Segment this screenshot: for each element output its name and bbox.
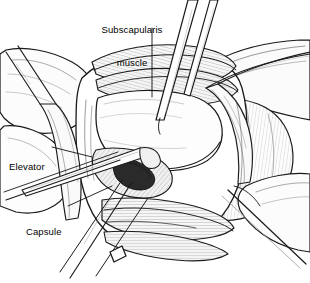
label-subscapularis-line1: Subscapularis <box>86 24 178 35</box>
label-elevator: Elevator <box>9 139 45 194</box>
label-subscapularis-muscle: Subscapularis muscle <box>86 2 178 90</box>
label-elevator-line1: Elevator <box>9 161 45 172</box>
label-capsule: Capsule <box>26 204 62 259</box>
label-capsule-line1: Capsule <box>26 226 62 237</box>
label-subscapularis-line2: muscle <box>86 57 178 68</box>
surgical-illustration-figure: Subscapularis muscle Elevator Capsule <box>0 0 310 283</box>
